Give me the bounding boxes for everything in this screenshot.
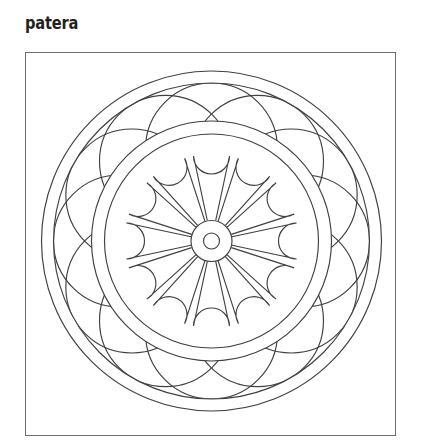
petal — [227, 248, 294, 299]
scallop-circle — [66, 129, 198, 261]
patera-rosette-illustration — [26, 53, 397, 437]
figure-caption: patera — [25, 13, 78, 33]
artwork-group — [42, 71, 382, 411]
page-root: patera — [0, 0, 422, 446]
scallop-circle — [225, 129, 357, 261]
petal — [194, 262, 230, 327]
outer-circle — [42, 71, 382, 411]
petal — [129, 248, 196, 299]
petal — [227, 183, 294, 234]
scallop-circle — [66, 221, 198, 353]
petal — [153, 158, 204, 225]
scallop-circle — [225, 221, 357, 353]
hub-center-ring — [204, 233, 220, 249]
illustration-frame — [25, 52, 396, 436]
petal — [127, 223, 192, 259]
petal — [218, 257, 269, 324]
petal — [194, 156, 230, 221]
mid-band-outer-circle — [92, 121, 332, 361]
petal — [218, 158, 269, 225]
scallop-circle — [146, 83, 278, 215]
hub-circle — [191, 221, 232, 262]
outer-inner-circle — [54, 83, 370, 399]
scallop-circle — [192, 95, 324, 227]
scallop-circle — [192, 255, 324, 387]
mid-band-inner-circle — [105, 134, 319, 348]
scallop-circle — [100, 255, 232, 387]
scallop-circle — [146, 267, 278, 399]
petal — [232, 223, 297, 259]
scallop-circle — [238, 175, 370, 307]
scallop-circle — [100, 95, 232, 227]
scallop-circle — [54, 175, 186, 307]
petal — [153, 257, 204, 324]
petal — [129, 183, 196, 234]
